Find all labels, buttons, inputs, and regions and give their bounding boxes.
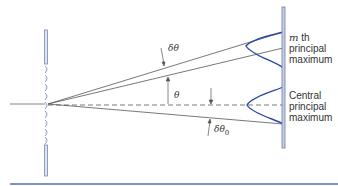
delta-theta-0-label: δθ0 — [214, 124, 229, 137]
mth-maximum-label: m th principal maximum — [289, 32, 332, 65]
central-maximum-intensity-curve — [247, 87, 283, 124]
bottom-rule — [10, 183, 338, 185]
central-maximum-label-line1: Central — [289, 90, 332, 101]
observation-screen — [282, 7, 285, 148]
mth-maximum-label-line3: maximum — [289, 54, 332, 65]
grating-slits — [45, 66, 47, 144]
diffraction-rays — [48, 32, 283, 124]
grating-bottom-bar — [45, 145, 48, 176]
delta-theta-label: δθ — [168, 43, 179, 53]
central-maximum-label-line3: maximum — [289, 112, 332, 123]
mth-maximum-intensity-curve — [246, 32, 283, 68]
ray-mth-upper — [48, 32, 283, 104]
central-maximum-label-line2: principal — [289, 101, 332, 112]
delta-theta-0-base: δθ — [214, 124, 225, 134]
grating-top-bar — [45, 30, 48, 64]
theta-label: θ — [174, 90, 179, 100]
grating-diagram — [0, 0, 338, 186]
central-maximum-label: Central principal maximum — [289, 90, 332, 123]
mth-maximum-label-line2: principal — [289, 43, 332, 54]
mth-maximum-label-line1: m th — [289, 32, 332, 43]
ray-mth-lower — [48, 48, 283, 104]
delta-theta-0-subscript: 0 — [225, 129, 229, 137]
